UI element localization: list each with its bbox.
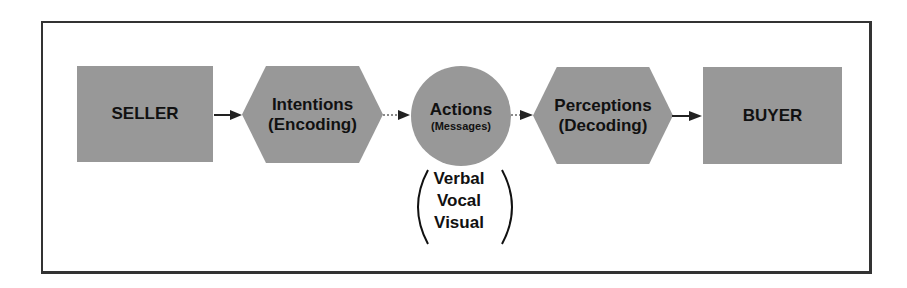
arrows-layer: [0, 0, 907, 288]
action-modes-list: Verbal Vocal Visual: [414, 168, 504, 234]
arrow-perceptions-buyer: [672, 111, 702, 121]
arrow-seller-intentions: [214, 110, 242, 120]
arrow-intentions-actions: [383, 110, 410, 120]
mode-verbal: Verbal: [414, 168, 504, 190]
mode-visual: Visual: [414, 212, 504, 234]
mode-vocal: Vocal: [414, 190, 504, 212]
arrow-actions-perceptions: [511, 110, 533, 120]
